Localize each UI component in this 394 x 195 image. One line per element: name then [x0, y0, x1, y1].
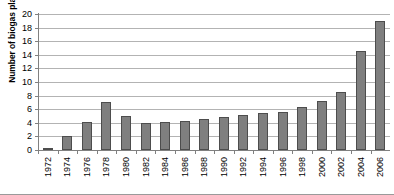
bar-slot — [77, 14, 97, 150]
y-tick-label-4: 4 — [27, 118, 32, 127]
x-tick-1988 — [195, 150, 196, 154]
bar-1978 — [101, 102, 111, 150]
y-tick-label-2: 2 — [27, 132, 32, 141]
x-label-slot: 1972 — [38, 155, 58, 193]
y-axis-tick-labels: 02468101214161820 — [0, 0, 36, 165]
x-label-slot: 1992 — [234, 155, 254, 193]
bar-slot — [234, 14, 254, 150]
x-label-slot: 1998 — [292, 155, 312, 193]
x-label-slot: 2000 — [312, 155, 332, 193]
bar-1988 — [199, 119, 209, 150]
x-tick-1984 — [155, 150, 156, 154]
x-tick-label-1986: 1986 — [180, 157, 189, 177]
y-tick-label-0: 0 — [27, 146, 32, 155]
bar-2006 — [375, 21, 385, 150]
x-tick-label-1984: 1984 — [161, 157, 170, 177]
x-tick-1992 — [234, 150, 235, 154]
x-tick-2004 — [351, 150, 352, 154]
bar-slot — [175, 14, 195, 150]
x-tick-label-1990: 1990 — [219, 157, 228, 177]
bar-slot — [214, 14, 234, 150]
x-tick-label-1992: 1992 — [239, 157, 248, 177]
y-tick-label-18: 18 — [22, 23, 32, 32]
x-label-slot: 1980 — [116, 155, 136, 193]
x-tick-1998 — [292, 150, 293, 154]
x-tick-2000 — [312, 150, 313, 154]
x-label-slot: 1974 — [58, 155, 78, 193]
x-label-slot: 1982 — [136, 155, 156, 193]
bar-1982 — [141, 123, 151, 150]
x-label-slot: 1994 — [253, 155, 273, 193]
x-tick-label-1980: 1980 — [122, 157, 131, 177]
bar-2002 — [336, 92, 346, 150]
x-label-slot: 1976 — [77, 155, 97, 193]
bar-slot — [371, 14, 391, 150]
bar-1976 — [82, 122, 92, 150]
bottom-divider — [0, 194, 394, 195]
x-label-slot: 2004 — [351, 155, 371, 193]
x-tick-1978 — [97, 150, 98, 154]
x-tick-1996 — [273, 150, 274, 154]
x-axis-tick-labels: 1972197419761978198019821984198619881990… — [38, 155, 390, 193]
bar-slot — [195, 14, 215, 150]
x-tick-label-2006: 2006 — [376, 157, 385, 177]
x-tick-label-1976: 1976 — [82, 157, 91, 177]
y-tick-label-10: 10 — [22, 78, 32, 87]
bar-1992 — [238, 115, 248, 150]
bar-1974 — [62, 136, 72, 150]
bar-slot — [58, 14, 78, 150]
x-tick-2002 — [331, 150, 332, 154]
bar-slot — [273, 14, 293, 150]
x-tick-label-1978: 1978 — [102, 157, 111, 177]
x-tick-label-2004: 2004 — [356, 157, 365, 177]
x-label-slot: 2002 — [331, 155, 351, 193]
bar-1984 — [160, 122, 170, 150]
bar-1994 — [258, 113, 268, 150]
y-tick-label-12: 12 — [22, 64, 32, 73]
bar-series — [38, 14, 390, 150]
x-label-slot: 1988 — [195, 155, 215, 193]
x-tick-label-1996: 1996 — [278, 157, 287, 177]
x-label-slot: 1986 — [175, 155, 195, 193]
x-tick-label-1998: 1998 — [298, 157, 307, 177]
bar-slot — [97, 14, 117, 150]
bar-slot — [253, 14, 273, 150]
bar-chart: Number of biogas plants in Mio 024681012… — [0, 0, 394, 195]
y-tick-label-14: 14 — [22, 50, 32, 59]
y-tick-label-16: 16 — [22, 37, 32, 46]
x-tick-label-2002: 2002 — [337, 157, 346, 177]
x-label-slot: 1978 — [97, 155, 117, 193]
x-tick-1982 — [136, 150, 137, 154]
y-tick-label-20: 20 — [22, 10, 32, 19]
x-tick-label-1994: 1994 — [258, 157, 267, 177]
bar-1986 — [180, 121, 190, 150]
x-label-slot: 2006 — [371, 155, 391, 193]
x-tick-1974 — [58, 150, 59, 154]
bar-1980 — [121, 116, 131, 150]
bar-slot — [331, 14, 351, 150]
x-tick-2006 — [371, 150, 372, 154]
bar-slot — [38, 14, 58, 150]
x-tick-1980 — [116, 150, 117, 154]
bar-slot — [312, 14, 332, 150]
x-tick-1972 — [38, 150, 39, 154]
x-tick-1986 — [175, 150, 176, 154]
bar-1998 — [297, 107, 307, 150]
bar-1990 — [219, 117, 229, 150]
y-tick-label-6: 6 — [27, 105, 32, 114]
bar-slot — [136, 14, 156, 150]
bar-1996 — [278, 112, 288, 150]
bar-slot — [292, 14, 312, 150]
x-tick-label-1974: 1974 — [63, 157, 72, 177]
x-label-slot: 1990 — [214, 155, 234, 193]
bar-slot — [116, 14, 136, 150]
bar-slot — [155, 14, 175, 150]
x-label-slot: 1984 — [155, 155, 175, 193]
x-tick-1976 — [77, 150, 78, 154]
x-label-slot: 1996 — [273, 155, 293, 193]
bar-2004 — [356, 51, 366, 150]
x-tick-label-1988: 1988 — [200, 157, 209, 177]
x-tick-1994 — [253, 150, 254, 154]
y-tick-label-8: 8 — [27, 91, 32, 100]
x-tick-label-1982: 1982 — [141, 157, 150, 177]
